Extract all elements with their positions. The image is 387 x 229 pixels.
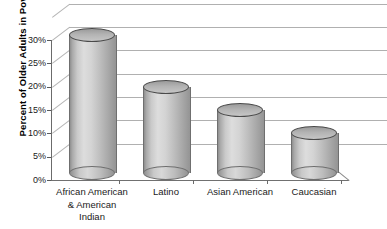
cylinder-body: [143, 87, 191, 173]
x-axis-tick-mark-3: [341, 180, 342, 184]
x-axis-tick-mark-1: [193, 180, 194, 184]
gridline-7: [69, 4, 387, 5]
gridline-riser-3: [52, 96, 70, 110]
y-axis-tick-5: 5%: [10, 151, 46, 162]
y-axis-tick-label: 10%: [12, 128, 46, 138]
x-axis-category-label-3: Caucasian: [267, 186, 361, 199]
y-axis-tick-4: 10%: [10, 128, 46, 139]
cylinder-top-ellipse: [217, 103, 263, 117]
cylinder-base-ellipse: [291, 166, 337, 180]
y-axis-tick-label: 15%: [12, 105, 46, 115]
y-axis-tick-0: 30%: [10, 35, 46, 46]
gridline-riser-4: [52, 120, 70, 134]
y-axis-tick-6: 0%: [10, 175, 46, 186]
y-axis-tick-1: 25%: [10, 58, 46, 69]
category-label-line: Indian: [45, 211, 139, 224]
x-axis-tick-mark-2: [267, 180, 268, 184]
cylinder-base-ellipse: [217, 166, 263, 180]
category-label-line: Caucasian: [267, 186, 361, 199]
gridline-riser-7: [52, 3, 70, 17]
plot-area: 30%25%20%15%10%5%0% African American& Am…: [0, 0, 387, 229]
x-axis-tick-mark-0: [119, 180, 120, 184]
cylinder-base-ellipse: [69, 166, 115, 180]
gridline-riser-0: [52, 26, 70, 40]
gridline-riser-2: [52, 73, 70, 87]
cylinder-body: [217, 110, 265, 173]
cylinder-body: [69, 35, 117, 173]
y-axis-tick-2: 20%: [10, 81, 46, 92]
gridline-0: [69, 27, 387, 28]
cylinder-base-ellipse: [143, 166, 189, 180]
y-axis-line: [51, 40, 52, 181]
bar-cylinder-0: [69, 28, 115, 180]
y-axis-tick-label: 20%: [12, 81, 46, 91]
poverty-cylinder-chart: Percent of Older Adults in Poverty 30%25…: [0, 0, 387, 229]
floor-front-edge: [52, 180, 349, 181]
cylinder-top-ellipse: [143, 80, 189, 94]
y-axis-tick-label: 25%: [12, 58, 46, 68]
y-axis-tick-label: 30%: [12, 35, 46, 45]
gridline-riser-1: [52, 50, 70, 64]
y-axis-tick-3: 15%: [10, 105, 46, 116]
bar-cylinder-2: [217, 103, 263, 180]
y-axis-tick-label: 0%: [12, 175, 46, 185]
category-label-line: & American: [45, 199, 139, 212]
bar-cylinder-1: [143, 80, 189, 180]
bar-cylinder-3: [291, 126, 337, 180]
y-axis-tick-label: 5%: [12, 151, 46, 161]
gridline-riser-5: [52, 143, 70, 157]
